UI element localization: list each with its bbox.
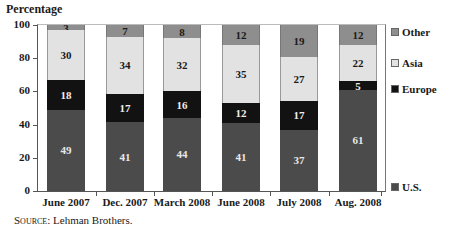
legend-label: U.S. [402,181,422,193]
legend-label: Europe [402,83,437,95]
bar-june-2008: 41123512 [222,25,260,191]
y-tick-label: 100 [4,18,30,30]
bar-march-2008: 4416328 [163,25,201,191]
legend-label: Other [402,26,430,38]
legend-item-europe: Europe [391,83,437,95]
segment-us: 49 [47,110,85,191]
segment-europe: 12 [222,103,260,123]
segment-us: 41 [222,123,260,191]
y-tick-label: 40 [4,118,30,130]
segment-us: 44 [163,118,201,191]
segment-other: 19 [280,25,318,57]
y-tick [33,25,38,26]
segment-other: 12 [222,25,260,45]
y-tick [33,191,38,192]
segment-asia: 35 [222,45,260,103]
bar-aug-2008: 6152212 [339,25,377,191]
bar-july-2008: 37172719 [280,25,318,191]
bar-dec-2007: 4117347 [106,25,144,191]
legend-swatch-icon [391,59,399,67]
legend-item-other: Other [391,26,430,38]
segment-asia: 22 [339,45,377,82]
y-tick-label: 80 [4,51,30,63]
segment-other: 8 [163,25,201,38]
legend-item-us: U.S. [391,181,422,193]
segment-asia: 30 [47,30,85,80]
segment-other: 12 [339,25,377,45]
bar-june-2007: 4918303 [47,25,85,191]
segment-europe: 17 [106,94,144,123]
segment-asia: 34 [106,37,144,94]
segment-us: 61 [339,90,377,191]
segment-us: 41 [106,122,144,191]
source-prefix: Source: [14,214,50,226]
legend-swatch-icon [391,85,399,93]
y-tick-label: 60 [4,84,30,96]
legend-swatch-icon [391,183,399,191]
segment-europe: 17 [280,101,318,129]
y-tick [33,91,38,92]
segment-europe: 16 [163,91,201,118]
legend-item-asia: Asia [391,57,423,69]
y-tick [33,125,38,126]
x-tick-label: Aug. 2008 [323,196,393,208]
segment-other: 7 [106,25,144,37]
legend-swatch-icon [391,28,399,36]
segment-asia: 32 [163,38,201,91]
y-tick-label: 0 [4,184,30,196]
segment-europe: 18 [47,80,85,110]
segment-us: 37 [280,130,318,191]
y-tick [33,58,38,59]
segment-asia: 27 [280,57,318,102]
y-tick [33,158,38,159]
segment-europe: 5 [339,81,377,89]
chart-plot-area: 0204060801004918303411734744163284112351… [37,24,386,192]
y-axis-title: Percentage [6,2,62,17]
y-tick-label: 20 [4,151,30,163]
source-note: Source: Lehman Brothers. [14,214,132,226]
legend-label: Asia [402,57,423,69]
source-text: Lehman Brothers. [50,214,132,226]
